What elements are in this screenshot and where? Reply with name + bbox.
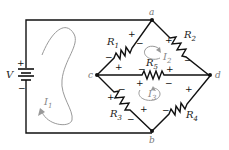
r2-label: R2 <box>183 29 197 43</box>
svg-text:−: − <box>118 84 126 94</box>
battery-plus: + <box>17 58 25 68</box>
r2-resistor-icon <box>152 20 210 76</box>
svg-text:+: + <box>136 78 144 88</box>
svg-text:−: − <box>165 78 173 88</box>
svg-text:+: + <box>140 104 148 114</box>
svg-text:−: − <box>136 38 144 48</box>
i1-loop-arrow-icon <box>42 28 75 125</box>
svg-text:+: + <box>107 92 115 102</box>
svg-text:+: + <box>185 84 193 94</box>
i1-label: I1 <box>43 96 52 110</box>
svg-text:+: + <box>128 29 136 39</box>
node-c-label: c <box>88 70 93 80</box>
battery-minus: − <box>18 83 26 93</box>
r3-label: R3 <box>109 108 123 122</box>
svg-text:−: − <box>138 64 146 74</box>
i2-label: I2 <box>162 51 172 65</box>
top-wire <box>26 20 152 68</box>
node-b-label: b <box>149 135 155 145</box>
svg-text:−: − <box>184 55 192 65</box>
source-label: V <box>6 69 15 80</box>
r1-label: R1 <box>106 36 119 50</box>
svg-text:+: + <box>166 64 174 74</box>
svg-text:−: − <box>105 52 113 62</box>
svg-text:−: − <box>127 114 135 124</box>
r4-label: R4 <box>185 109 198 123</box>
svg-text:+: + <box>115 62 123 72</box>
r5-resistor-icon <box>97 71 210 79</box>
svg-text:+: + <box>165 35 173 45</box>
svg-text:−: − <box>162 105 170 115</box>
node-a-label: a <box>149 7 154 17</box>
battery-icon <box>18 69 34 80</box>
circuit-diagram: + − V a b c d R1 R2 R3 R4 R5 + − − + + −… <box>0 0 229 150</box>
node-d-label: d <box>215 70 221 80</box>
r4-resistor-icon <box>152 76 210 131</box>
